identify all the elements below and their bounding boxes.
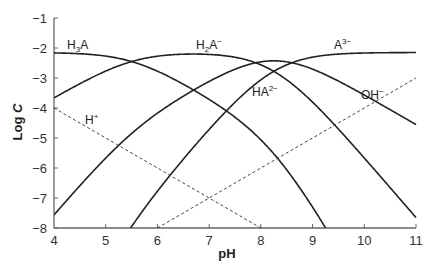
species-labels: H3A H2A− A3− HA2− H+ OH− [67,37,384,127]
curve-a3 [54,53,416,243]
label-ha2: HA2− [252,84,278,99]
x-tick-label: 6 [154,233,161,248]
y-tick-label: −7 [32,191,47,206]
x-tick-label: 10 [357,233,371,248]
curve-h3a [54,53,416,243]
label-h2a: H2A− [196,37,222,54]
label-oh-minus: OH− [361,87,384,102]
x-tick-label: 11 [409,233,423,248]
y-tick-label: −5 [32,131,47,146]
x-tick-label: 4 [50,233,57,248]
x-tick-label: 8 [257,233,264,248]
y-tick-label: −8 [32,221,47,236]
curve-h2a [54,54,416,217]
x-tick-label: 5 [102,233,109,248]
y-tick-label: −4 [32,101,47,116]
label-h-plus: H+ [85,112,99,127]
y-tick-label: −6 [32,161,47,176]
curve-ha2 [54,61,416,215]
label-a3: A3− [334,37,351,52]
speciation-chart: −1−2−3−4−5−6−7−8 4567891011 H3A H2A− A3−… [0,0,434,272]
x-tick-label: 7 [206,233,213,248]
y-tick-label: −1 [32,11,47,26]
curves [54,53,416,243]
y-axis-title: Log C [10,103,25,140]
label-h3a: H3A [67,38,88,54]
x-tick-label: 9 [309,233,316,248]
y-tick-label: −2 [32,41,47,56]
axes: −1−2−3−4−5−6−7−8 4567891011 [32,11,423,249]
y-tick-label: −3 [32,71,47,86]
x-axis-title: pH [218,246,235,261]
